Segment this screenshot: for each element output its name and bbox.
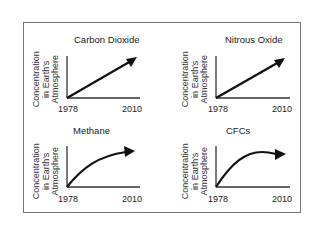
x-tick-start: 1978 [208, 194, 228, 204]
x-tick-end: 2010 [272, 194, 292, 204]
plot-area [0, 0, 319, 226]
